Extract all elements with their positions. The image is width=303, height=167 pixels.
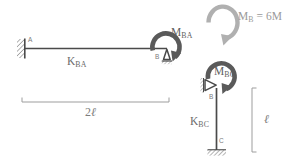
node-label-b-beam: B — [155, 54, 159, 61]
dimension-column-height — [252, 88, 257, 152]
applied-moment-sub: B — [248, 15, 253, 24]
support-b-pin — [162, 49, 172, 64]
dimension-label-column-height: ℓ — [264, 113, 269, 125]
structural-diagram: A KBA B MBA MB = 6M 2ℓ MBC B KBC C ℓ — [0, 0, 303, 167]
moment-label-mba: MBA — [171, 27, 193, 39]
support-a-fixed — [17, 39, 25, 59]
moment-label-mbc-sub: BC — [224, 70, 235, 79]
moment-label-mba-prefix: M — [171, 26, 181, 38]
dimension-label-beam-span: 2ℓ — [85, 106, 96, 118]
node-label-a: A — [28, 37, 32, 44]
moment-label-mbc: MBC — [214, 66, 235, 78]
moment-label-mba-sub: BA — [181, 31, 192, 40]
applied-moment-equals: = 6M — [254, 10, 282, 22]
stiffness-label-kba: KBA — [67, 56, 87, 68]
applied-moment-prefix: M — [238, 10, 248, 22]
moment-arrow-applied — [209, 7, 238, 46]
dimension-beam-span — [22, 98, 169, 103]
support-c-fixed — [208, 150, 227, 156]
moment-label-mbc-prefix: M — [214, 65, 224, 77]
node-label-c: C — [219, 138, 224, 145]
applied-moment-equation: MB = 6M — [238, 11, 282, 23]
stiffness-label-kbc-sub: BC — [198, 120, 209, 129]
stiffness-label-kba-sub: BA — [75, 60, 86, 69]
support-b-pin-column — [200, 78, 216, 92]
stiffness-label-kbc: KBC — [190, 116, 209, 128]
diagram-canvas — [0, 0, 303, 167]
node-label-b-column: B — [209, 94, 213, 101]
dimension-beam-unit: ℓ — [91, 105, 96, 119]
